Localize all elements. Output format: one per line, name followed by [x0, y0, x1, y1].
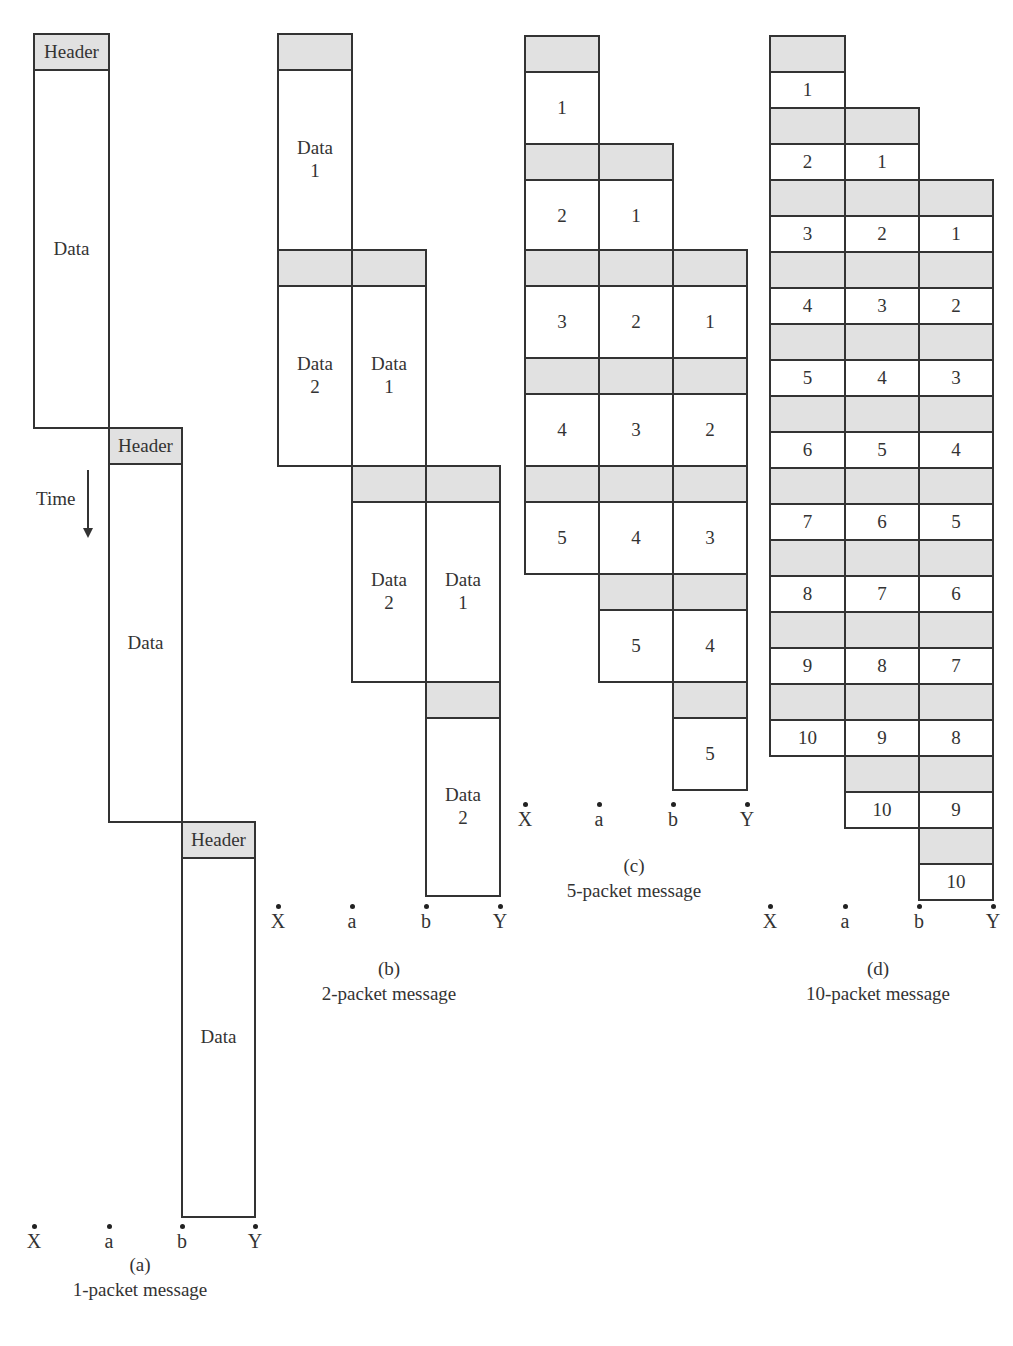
packet-header-cell: [769, 539, 846, 577]
packet-data-cell: 3: [769, 215, 846, 253]
packet-header-cell: [598, 357, 674, 395]
caption-letter: (c): [534, 853, 734, 878]
node-dot: [424, 904, 429, 909]
node-label-y: Y: [490, 910, 510, 933]
node-dot: [597, 802, 602, 807]
packet-data-cell: 2: [918, 287, 994, 325]
packet-header-cell: [425, 465, 501, 503]
node-label-a: a: [342, 910, 362, 933]
packet-data-cell: 1: [598, 179, 674, 253]
packet-header-cell: [918, 539, 994, 577]
packet-header-cell: [598, 143, 674, 181]
packet-data-cell: 2: [769, 143, 846, 181]
packet-data-cell: 9: [769, 647, 846, 685]
packet-data-cell: 4: [672, 609, 748, 683]
packet-data-cell: 4: [844, 359, 920, 397]
packet-header-cell: [918, 323, 994, 361]
packet-header-cell: [672, 573, 748, 611]
packet-data-cell: Data 2: [351, 501, 427, 683]
packet-header-cell: [672, 357, 748, 395]
node-name: X: [518, 808, 532, 830]
packet-header-cell: [351, 465, 427, 503]
packet-header-cell: Header: [108, 427, 183, 465]
packet-data-cell: 1: [769, 71, 846, 109]
packet-data-cell: Data 1: [351, 285, 427, 467]
packet-data-cell: 7: [918, 647, 994, 685]
node-label-y: Y: [983, 910, 1003, 933]
node-label-x: X: [760, 910, 780, 933]
panel-caption-c: (c)5-packet message: [534, 853, 734, 903]
caption-text: 5-packet message: [534, 878, 734, 903]
panel-caption-b: (b)2-packet message: [289, 956, 489, 1006]
node-label-b: b: [909, 910, 929, 933]
node-label-y: Y: [245, 1230, 265, 1253]
packet-header-cell: [351, 249, 427, 287]
packet-data-cell: 2: [844, 215, 920, 253]
packet-header-cell: [277, 33, 353, 71]
packet-data-cell: 3: [672, 501, 748, 575]
packet-data-cell: Data 1: [277, 69, 353, 251]
panel-caption-a: (a)1-packet message: [40, 1252, 240, 1302]
packet-header-cell: Header: [33, 33, 110, 71]
node-dot: [843, 904, 848, 909]
packet-header-cell: [598, 465, 674, 503]
packet-data-cell: 7: [844, 575, 920, 613]
packet-header-cell: [918, 755, 994, 793]
packet-header-cell: [918, 683, 994, 721]
node-dot: [180, 1224, 185, 1229]
packet-data-cell: 3: [918, 359, 994, 397]
packet-header-cell: Header: [181, 821, 256, 859]
node-dot: [276, 904, 281, 909]
packet-header-cell: [672, 465, 748, 503]
node-name: X: [271, 910, 285, 932]
packet-header-cell: [844, 251, 920, 289]
packet-header-cell: [598, 573, 674, 611]
packet-header-cell: [844, 179, 920, 217]
packet-header-cell: [524, 249, 600, 287]
packet-data-cell: 8: [918, 719, 994, 757]
node-dot: [32, 1224, 37, 1229]
packet-data-cell: 8: [769, 575, 846, 613]
node-dot: [917, 904, 922, 909]
caption-letter: (b): [289, 956, 489, 981]
packet-data-cell: 4: [769, 287, 846, 325]
packet-header-cell: [598, 249, 674, 287]
node-name: b: [177, 1230, 187, 1252]
packet-data-cell: 3: [598, 393, 674, 467]
packet-header-cell: [844, 755, 920, 793]
packet-data-cell: 3: [844, 287, 920, 325]
packet-data-cell: 2: [524, 179, 600, 253]
packet-data-cell: Data 1: [425, 501, 501, 683]
time-label: Time: [36, 488, 75, 510]
packet-data-cell: 10: [844, 791, 920, 829]
packet-header-cell: [918, 827, 994, 865]
packet-header-cell: [425, 681, 501, 719]
packet-data-cell: 10: [769, 719, 846, 757]
packet-data-cell: 5: [918, 503, 994, 541]
packet-data-cell: 6: [844, 503, 920, 541]
node-name: a: [841, 910, 850, 932]
node-name: a: [595, 808, 604, 830]
node-dot: [253, 1224, 258, 1229]
node-name: a: [105, 1230, 114, 1252]
packet-header-cell: [769, 683, 846, 721]
packet-data-cell: 5: [598, 609, 674, 683]
packet-header-cell: [524, 143, 600, 181]
packet-data-cell: 4: [918, 431, 994, 469]
node-dot: [991, 904, 996, 909]
node-dot: [671, 802, 676, 807]
packet-data-cell: Data: [181, 857, 256, 1218]
packet-data-cell: 5: [844, 431, 920, 469]
packet-data-cell: 1: [672, 285, 748, 359]
packet-data-cell: 9: [844, 719, 920, 757]
node-name: X: [763, 910, 777, 932]
packet-data-cell: 1: [918, 215, 994, 253]
packet-header-cell: [918, 395, 994, 433]
packet-header-cell: [672, 681, 748, 719]
node-label-a: a: [589, 808, 609, 831]
packet-header-cell: [769, 467, 846, 505]
packet-header-cell: [844, 467, 920, 505]
node-name: Y: [740, 808, 754, 830]
packet-data-cell: Data 2: [425, 717, 501, 897]
node-label-b: b: [663, 808, 683, 831]
